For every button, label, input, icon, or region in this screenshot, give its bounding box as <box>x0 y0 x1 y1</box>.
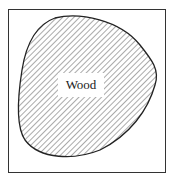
wood-diagram: Wood <box>0 0 172 181</box>
region-label: Wood <box>66 77 97 92</box>
